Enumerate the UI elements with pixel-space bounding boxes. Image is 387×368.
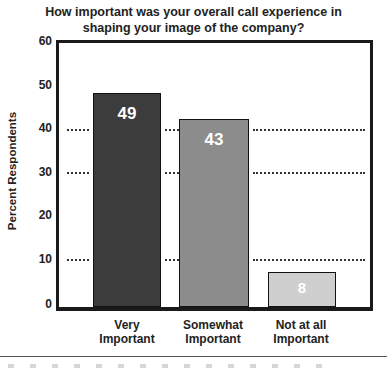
- x-label-line: Not at all: [246, 318, 356, 332]
- y-tick-30: 30: [14, 165, 52, 179]
- y-tick-20: 20: [14, 208, 52, 222]
- gridline-30-seg-3: [253, 172, 365, 174]
- x-label-line: Important: [246, 332, 356, 346]
- bar-very-important: 49: [93, 93, 161, 307]
- gridline-10-seg-2: [165, 259, 179, 261]
- bar-value-label: 8: [269, 279, 335, 296]
- y-tick-0: 0: [14, 297, 52, 311]
- chart-title-line-1: How important was your overall call expe…: [0, 4, 387, 20]
- bar-value-label: 43: [180, 130, 248, 150]
- clipped-caption: [8, 364, 338, 368]
- bar-value-label: 49: [94, 104, 160, 124]
- gridline-10-seg-3: [253, 259, 365, 261]
- gridline-40-seg-3: [253, 129, 365, 131]
- gridline-30-seg-2: [165, 172, 179, 174]
- y-tick-40: 40: [14, 121, 52, 135]
- bar-somewhat-important: 43: [179, 119, 249, 307]
- x-label-not-at-all-important: Not at all Important: [246, 318, 356, 346]
- chart-title-line-2: shaping your image of the company?: [0, 20, 387, 36]
- y-tick-60: 60: [14, 34, 52, 48]
- gridline-30-seg-1: [67, 172, 89, 174]
- caption-divider: [0, 356, 387, 357]
- gridline-40-seg-2: [165, 129, 179, 131]
- plot-area: 49 43 8: [56, 40, 373, 311]
- y-tick-50: 50: [14, 78, 52, 92]
- gridline-40-seg-1: [67, 129, 89, 131]
- gridline-10-seg-1: [67, 259, 89, 261]
- bar-not-at-all-important: 8: [268, 272, 336, 307]
- chart-title: How important was your overall call expe…: [0, 4, 387, 36]
- y-tick-10: 10: [14, 252, 52, 266]
